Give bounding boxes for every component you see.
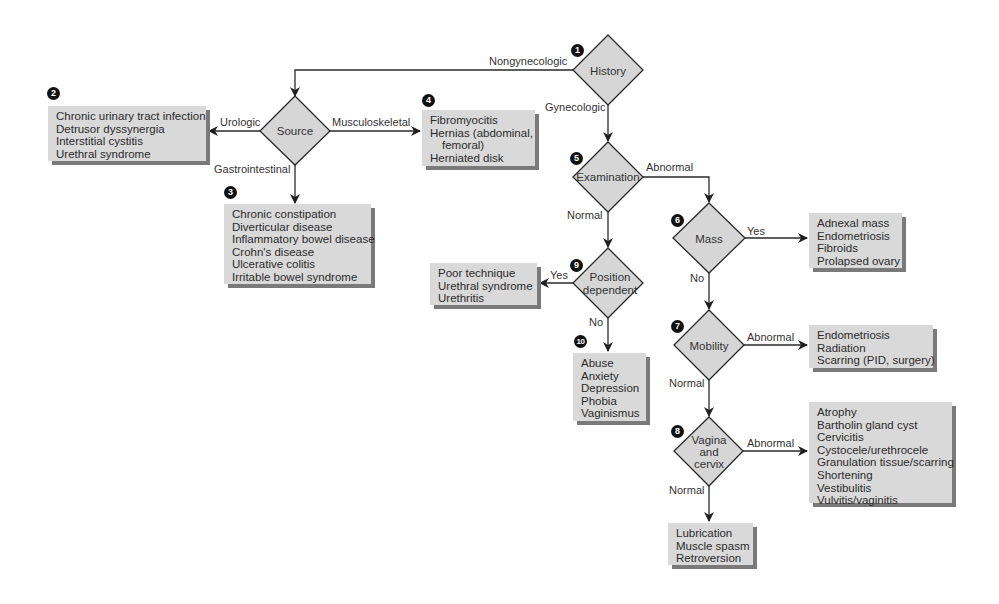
outcome-item: Abuse — [581, 357, 638, 370]
label-mobility-abnormal: Abnormal — [747, 331, 794, 343]
outcome-item: Interstitial cystitis — [56, 135, 198, 148]
outcome-box-urologic: Chronic urinary tract infection Detrusor… — [48, 106, 206, 161]
outcome-item: Urethral syndrome — [438, 280, 529, 293]
outcome-item: Chronic urinary tract infection — [56, 110, 198, 123]
outcome-item: Crohn's disease — [232, 246, 363, 259]
outcome-item: Endometriosis — [817, 329, 925, 342]
outcome-item: Retroversion — [676, 552, 745, 565]
outcome-box-gastrointestinal: Chronic constipation Diverticular diseas… — [224, 204, 371, 284]
vagina-label-1: Vagina — [692, 434, 727, 446]
step-badge-7: 7 — [671, 320, 684, 333]
outcome-item: Bartholin gland cyst — [817, 419, 944, 432]
mobility-label: Mobility — [690, 340, 729, 352]
outcome-box-mass: Adnexal mass Endometriosis Fibroids Prol… — [809, 213, 902, 268]
outcome-item: Scarring (PID, surgery) — [817, 354, 925, 367]
decision-position-dependent — [573, 248, 643, 318]
outcome-item: Urethral syndrome — [56, 148, 198, 161]
outcome-item: Lubrication — [676, 527, 745, 540]
label-position-no: No — [589, 316, 603, 328]
label-exam-normal: Normal — [567, 209, 602, 221]
outcome-item: Herniated disk — [430, 152, 527, 165]
label-urologic: Urologic — [220, 116, 260, 128]
label-nongynecologic: Nongynecologic — [489, 55, 567, 67]
outcome-item: Phobia — [581, 395, 638, 408]
outcome-item: Cervicitis — [817, 431, 944, 444]
label-exam-abnormal: Abnormal — [646, 161, 693, 173]
outcome-item: Endometriosis — [817, 230, 894, 243]
outcome-item: Poor technique — [438, 267, 529, 280]
label-mass-yes: Yes — [747, 225, 765, 237]
step-badge-5: 5 — [570, 152, 583, 165]
outcome-item: Prolapsed ovary — [817, 255, 894, 268]
outcome-item: Muscle spasm — [676, 540, 745, 553]
position-label-1: Position — [590, 271, 631, 283]
outcome-box-vagina-cervix: Atrophy Bartholin gland cyst Cervicitis … — [809, 402, 952, 503]
vagina-label-3: cervix — [694, 458, 724, 470]
label-gastrointestinal: Gastrointestinal — [214, 163, 290, 175]
step-badge-8: 8 — [671, 425, 684, 438]
outcome-box-psychological: Abuse Anxiety Depression Phobia Vaginism… — [573, 353, 646, 421]
outcome-item: Depression — [581, 382, 638, 395]
examination-label: Examination — [576, 171, 639, 183]
outcome-item: Adnexal mass — [817, 217, 894, 230]
step-badge-1: 1 — [571, 44, 584, 57]
outcome-item: Irritable bowel syndrome — [232, 271, 363, 284]
label-mass-no: No — [690, 272, 704, 284]
outcome-item: Radiation — [817, 342, 925, 355]
position-label-2: dependent — [583, 284, 637, 296]
label-vagina-normal: Normal — [669, 484, 704, 496]
outcome-box-mobility: Endometriosis Radiation Scarring (PID, s… — [809, 325, 933, 368]
step-badge-6: 6 — [671, 214, 684, 227]
step-badge-3: 3 — [224, 186, 237, 199]
outcome-item: Granulation tissue/scarring — [817, 456, 944, 469]
outcome-item: Chronic constipation — [232, 208, 363, 221]
outcome-item: femoral) — [430, 139, 527, 152]
step-badge-9: 9 — [570, 259, 583, 272]
source-label: Source — [277, 125, 313, 137]
outcome-item: Inflammatory bowel disease — [232, 233, 363, 246]
outcome-item: Ulcerative colitis — [232, 258, 363, 271]
label-position-yes: Yes — [550, 269, 568, 281]
outcome-box-normal: Lubrication Muscle spasm Retroversion — [668, 523, 753, 565]
label-mobility-normal: Normal — [669, 377, 704, 389]
label-gynecologic: Gynecologic — [545, 101, 606, 113]
outcome-item: Shortening — [817, 469, 944, 482]
outcome-item: Fibroids — [817, 242, 894, 255]
outcome-item: Hernias (abdominal, — [430, 127, 527, 140]
edge-exam-abnormal — [643, 177, 709, 202]
outcome-item: Urethritis — [438, 292, 529, 305]
step-badge-2: 2 — [47, 87, 60, 100]
step-badge-10: 10 — [574, 335, 587, 348]
outcome-item: Fibromyocitis — [430, 114, 527, 127]
outcome-box-position: Poor technique Urethral syndrome Urethri… — [430, 263, 537, 305]
history-label: History — [590, 65, 626, 77]
label-vagina-abnormal: Abnormal — [747, 437, 794, 449]
outcome-item: Atrophy — [817, 406, 944, 419]
outcome-item: Vestibulitis — [817, 482, 944, 495]
outcome-item: Cystocele/urethrocele — [817, 444, 944, 457]
outcome-item: Detrusor dyssynergia — [56, 123, 198, 136]
outcome-item: Vaginismus — [581, 407, 638, 420]
edge-nongynecologic — [295, 70, 573, 96]
outcome-item: Anxiety — [581, 370, 638, 383]
step-badge-4: 4 — [422, 94, 435, 107]
outcome-item: Vulvitis/vaginitis — [817, 494, 944, 507]
outcome-box-musculoskeletal: Fibromyocitis Hernias (abdominal, femora… — [422, 110, 535, 166]
mass-label: Mass — [695, 233, 722, 245]
outcome-item: Diverticular disease — [232, 221, 363, 234]
vagina-label-2: and — [699, 446, 718, 458]
label-musculoskeletal: Musculoskeletal — [332, 116, 410, 128]
